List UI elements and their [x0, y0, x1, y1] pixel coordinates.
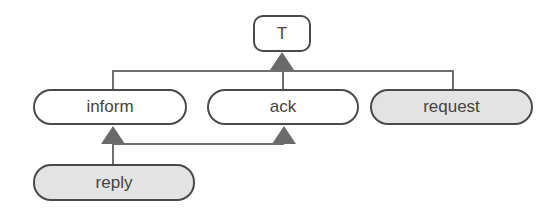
inheritance-arrow-icon: [270, 52, 294, 70]
inheritance-arrow-icon: [101, 126, 125, 144]
inheritance-diagram: T inform ack request reply: [0, 0, 556, 216]
connector-line: [112, 143, 114, 165]
node-reply: reply: [33, 164, 195, 201]
node-label: inform: [86, 97, 133, 117]
connector-line: [112, 70, 114, 90]
node-label: reply: [96, 173, 133, 193]
node-label: T: [277, 24, 287, 44]
connector-line: [282, 70, 284, 90]
inheritance-arrow-icon: [272, 126, 296, 144]
node-label: request: [423, 97, 480, 117]
node-ack: ack: [207, 89, 359, 125]
connector-line: [452, 70, 454, 90]
node-inform: inform: [33, 89, 187, 125]
node-request: request: [370, 89, 533, 125]
node-root-t: T: [253, 15, 311, 52]
node-label: ack: [270, 97, 296, 117]
connector-line: [113, 143, 284, 145]
